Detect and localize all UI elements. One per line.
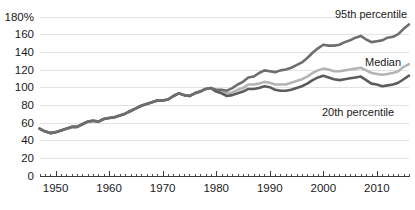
chart-container: 020406080100120140160180% 19501960197019… xyxy=(0,0,415,210)
x-axis-tick-label: 2010 xyxy=(364,182,390,194)
y-axis-tick-label: 0 xyxy=(28,170,34,182)
x-axis-tick-label: 1970 xyxy=(150,182,176,194)
y-axis-tick-label: 40 xyxy=(21,134,34,146)
y-axis-tick-labels: 020406080100120140160180% xyxy=(5,11,34,182)
x-axis-tick-label: 1950 xyxy=(43,182,69,194)
y-axis-tick-label: 100 xyxy=(15,81,34,93)
x-axis-tick-label: 1980 xyxy=(203,182,229,194)
series-label-p95: 95th percentile xyxy=(335,8,407,20)
x-axis-tick-label: 1990 xyxy=(257,182,283,194)
series-inline-labels: 95th percentileMedian20th percentile xyxy=(322,8,407,118)
y-axis-tick-label: 80 xyxy=(21,99,34,111)
y-axis-tick-label: 140 xyxy=(15,46,34,58)
y-axis-tick-label: 60 xyxy=(21,117,34,129)
series-line-p20 xyxy=(40,76,410,133)
y-axis-tick-label: 120 xyxy=(15,64,34,76)
x-axis-tick-labels: 1950196019701980199020002010 xyxy=(43,182,390,194)
x-axis xyxy=(40,171,410,177)
line-chart: 020406080100120140160180% 19501960197019… xyxy=(0,0,415,210)
y-axis-tick-label: 160 xyxy=(15,28,34,40)
series-label-p20: 20th percentile xyxy=(322,106,394,118)
series-label-median: Median xyxy=(365,56,401,68)
y-axis-tick-label: 20 xyxy=(21,152,34,164)
series-line-median xyxy=(40,64,410,133)
x-axis-tick-label: 2000 xyxy=(311,182,337,194)
x-axis-tick-label: 1960 xyxy=(96,182,122,194)
y-axis-tick-label: 180% xyxy=(5,11,34,23)
